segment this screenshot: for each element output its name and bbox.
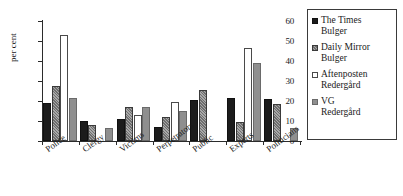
x-tick [300, 141, 301, 145]
plot-area: 0102030405060 [42, 21, 300, 141]
bar-group [226, 21, 263, 141]
bar-chart-figure: per cent 0102030405060 PoliceClergyVicti… [0, 0, 403, 196]
bar [244, 48, 252, 141]
bar [60, 35, 68, 141]
bar [69, 98, 77, 141]
bar-group [189, 21, 226, 141]
bar-group [42, 21, 79, 141]
chart-legend: The TimesBulger Daily MirrorBulger Aften… [307, 9, 397, 140]
legend-item-vg-redergard[interactable]: VGRedergård [312, 96, 393, 118]
y-axis-title: per cent [9, 33, 18, 62]
black-square-icon [312, 18, 318, 24]
x-tick [79, 141, 80, 145]
bar [154, 127, 162, 141]
bar [52, 86, 60, 141]
bar [227, 98, 235, 141]
legend-label: VGRedergård [321, 96, 360, 118]
x-tick [263, 141, 264, 145]
legend-label: AftenpostenRedergård [321, 69, 367, 91]
legend-item-the-times-bulger[interactable]: The TimesBulger [312, 15, 393, 37]
legend-label: Daily MirrorBulger [321, 42, 370, 64]
bar-group [116, 21, 153, 141]
bar [43, 103, 51, 141]
legend-item-aftenposten-redergard[interactable]: AftenpostenRedergård [312, 69, 393, 91]
hatched-square-icon [312, 45, 318, 51]
x-tick [189, 141, 190, 145]
bar-group [79, 21, 116, 141]
x-tick [42, 141, 43, 145]
gray-square-icon [312, 99, 318, 105]
bar [190, 100, 198, 141]
legend-label: The TimesBulger [321, 15, 361, 37]
x-tick [116, 141, 117, 145]
bar [117, 119, 125, 141]
x-tick [153, 141, 154, 145]
bar [105, 128, 113, 141]
white-square-icon [312, 72, 318, 78]
bar [264, 99, 272, 141]
x-tick [226, 141, 227, 145]
bar [80, 121, 88, 141]
bar [253, 63, 261, 141]
legend-item-daily-mirror-bulger[interactable]: Daily MirrorBulger [312, 42, 393, 64]
